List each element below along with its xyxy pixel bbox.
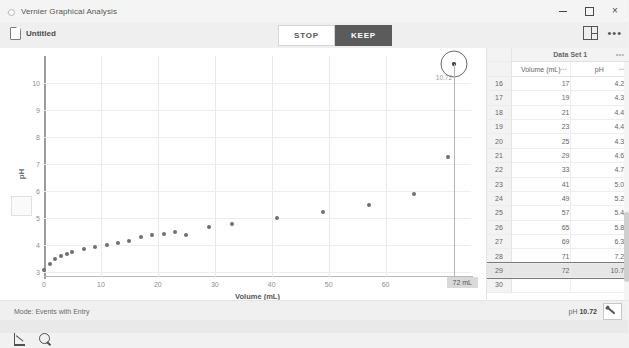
maximize-button[interactable] (576, 0, 602, 22)
column-header-volume[interactable]: Volume (mL) ••• (512, 62, 571, 76)
data-point[interactable] (412, 192, 416, 196)
volume-cell[interactable]: 69 (512, 235, 571, 249)
dataset-title[interactable]: Data Set 1 ••• (512, 48, 629, 62)
table-row[interactable]: 27696.39 (487, 235, 629, 249)
ph-cell[interactable]: 5.88 (570, 220, 629, 234)
keep-button[interactable]: KEEP (335, 25, 392, 46)
table-scrollbar-thumb[interactable] (624, 212, 629, 282)
data-table-pane[interactable]: Data Set 1 ••• Volume (mL) ••• pH ••• (486, 48, 629, 300)
volume-cell[interactable]: 17 (512, 76, 571, 90)
table-row[interactable]: 16174.29 (487, 76, 629, 90)
ph-cell[interactable]: 4.34 (570, 134, 629, 148)
y-axis-tick-label: 6 (36, 187, 40, 194)
row-index-cell: 18 (487, 105, 512, 119)
table-row[interactable]: 22334.77 (487, 163, 629, 177)
ph-cell[interactable]: 4.35 (570, 91, 629, 105)
table-row[interactable]: 26655.88 (487, 220, 629, 234)
ph-cell[interactable]: 4.41 (570, 105, 629, 119)
graph-pane[interactable]: pH Volume (mL) 010203040506034567891010.… (0, 48, 486, 300)
volume-cell[interactable]: 49 (512, 191, 571, 205)
data-point[interactable] (116, 241, 120, 245)
ph-cell[interactable]: 6.39 (570, 235, 629, 249)
data-point[interactable] (230, 222, 234, 226)
data-point[interactable] (53, 257, 57, 261)
data-point[interactable] (162, 232, 166, 236)
data-point[interactable] (59, 254, 63, 258)
row-index-header (487, 62, 512, 76)
column-header-ph[interactable]: pH ••• (570, 62, 629, 76)
volume-cell[interactable]: 29 (512, 148, 571, 162)
data-point[interactable] (321, 210, 325, 214)
document-name: Untitled (26, 29, 56, 38)
data-point[interactable] (139, 235, 143, 239)
volume-cell[interactable]: 72 (512, 263, 571, 277)
data-point[interactable] (173, 230, 177, 234)
table-row[interactable]: 28717.26 (487, 249, 629, 263)
data-point[interactable] (184, 233, 188, 237)
minimize-button[interactable] (550, 0, 576, 22)
table-row[interactable]: 30 (487, 278, 629, 292)
volume-cell[interactable]: 33 (512, 163, 571, 177)
ph-cell[interactable]: 10.72 (570, 263, 629, 277)
ph-cell[interactable]: 4.47 (570, 119, 629, 133)
data-point[interactable] (367, 203, 371, 207)
table-row[interactable]: 21294.65 (487, 148, 629, 162)
volume-cell[interactable]: 41 (512, 177, 571, 191)
document-chip[interactable]: Untitled (10, 27, 56, 40)
data-point[interactable] (65, 252, 69, 256)
volume-cell[interactable]: 19 (512, 91, 571, 105)
table-scrollbar-track[interactable] (624, 62, 629, 300)
dataset-menu-icon[interactable]: ••• (616, 51, 625, 58)
table-row[interactable]: 24495.21 (487, 191, 629, 205)
ph-cell[interactable]: 4.77 (570, 163, 629, 177)
volume-cell[interactable]: 21 (512, 105, 571, 119)
ph-cell[interactable] (570, 278, 629, 292)
volume-cell[interactable]: 25 (512, 134, 571, 148)
volume-cell[interactable]: 23 (512, 119, 571, 133)
data-point[interactable] (70, 250, 74, 254)
table-row[interactable]: 20254.34 (487, 134, 629, 148)
ph-cell[interactable]: 7.26 (570, 249, 629, 263)
status-bar: Mode: Events with Entry pH 10.72 (0, 300, 628, 321)
graph-axes-icon[interactable] (14, 333, 27, 346)
table-row[interactable]: 297210.72 (487, 263, 629, 277)
stop-button[interactable]: STOP (278, 25, 335, 46)
column-header-ph-text: pH (595, 66, 604, 73)
data-point[interactable] (82, 247, 86, 251)
column-volume-menu-icon[interactable]: ••• (560, 66, 566, 72)
table-row[interactable]: 23415.00 (487, 177, 629, 191)
data-point[interactable] (275, 216, 279, 220)
row-index-cell: 24 (487, 191, 512, 205)
sensor-probe-icon[interactable] (603, 303, 622, 320)
table-row[interactable]: 25575.47 (487, 206, 629, 220)
volume-cell[interactable]: 57 (512, 206, 571, 220)
x-range-badge[interactable]: 72 mL (447, 277, 478, 288)
data-point[interactable] (93, 245, 97, 249)
data-point[interactable] (150, 233, 154, 237)
y-axis-tick-label: 3 (36, 268, 40, 275)
more-options-icon[interactable]: ••• (607, 30, 622, 36)
data-point[interactable] (207, 225, 211, 229)
ph-cell[interactable]: 4.29 (570, 76, 629, 90)
data-point[interactable] (105, 243, 109, 247)
volume-cell[interactable] (512, 278, 571, 292)
layout-split-icon[interactable] (583, 26, 598, 40)
zoom-magnifier-icon[interactable] (39, 333, 52, 346)
table-row[interactable]: 17194.35 (487, 91, 629, 105)
row-index-cell: 17 (487, 91, 512, 105)
y-axis-label-box[interactable] (11, 196, 32, 216)
ph-cell[interactable]: 4.65 (570, 148, 629, 162)
data-point[interactable] (446, 155, 450, 159)
data-point[interactable] (48, 262, 52, 266)
volume-cell[interactable]: 65 (512, 220, 571, 234)
table-row[interactable]: 19234.47 (487, 119, 629, 133)
volume-cell[interactable]: 71 (512, 249, 571, 263)
data-point[interactable] (127, 239, 131, 243)
ph-cell[interactable]: 5.00 (570, 177, 629, 191)
plot-area[interactable]: 010203040506034567891010.72 (44, 56, 471, 277)
ph-cell[interactable]: 5.21 (570, 191, 629, 205)
ph-cell[interactable]: 5.47 (570, 206, 629, 220)
data-point[interactable] (42, 268, 46, 272)
table-row[interactable]: 18214.41 (487, 105, 629, 119)
close-button[interactable]: × (602, 0, 628, 22)
